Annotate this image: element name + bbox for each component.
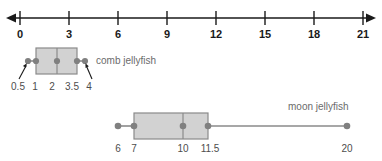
boxplot-comb-jellyfish[interactable]: 0.5 1 2 3.5 4 comb jellyfish	[11, 48, 156, 92]
axis-tick-label-9: 9	[164, 28, 170, 40]
moon-box	[134, 113, 208, 139]
moon-value-label-median: 10	[177, 143, 189, 154]
moon-value-label-max: 20	[341, 143, 353, 154]
axis-tick-labels: 0 3 6 9 12 15 18 21	[17, 28, 369, 40]
axis-tick-label-12: 12	[210, 28, 222, 40]
series-label-comb-jellyfish: comb jellyfish	[96, 55, 156, 66]
comb-marker-median	[54, 58, 60, 64]
comb-value-label-q3: 3.5	[65, 81, 79, 92]
moon-marker-median	[180, 123, 187, 130]
moon-value-label-min: 6	[115, 143, 121, 154]
comb-value-label-median: 2	[49, 81, 55, 92]
comb-pointer-min-arrow-icon	[19, 63, 27, 79]
moon-value-label-q1: 7	[131, 143, 137, 154]
moon-marker-q3	[205, 123, 212, 130]
comb-marker-q1	[33, 58, 39, 64]
series-label-moon-jellyfish: moon jellyfish	[288, 101, 349, 112]
number-line: 0 3 6 9 12 15 18 21	[6, 11, 376, 40]
number-line-arrow-left-icon	[6, 14, 16, 23]
axis-tick-label-18: 18	[308, 28, 320, 40]
comb-value-label-max: 4	[86, 81, 92, 92]
axis-tick-label-6: 6	[115, 28, 121, 40]
axis-tick-label-21: 21	[357, 28, 369, 40]
number-line-arrow-right-icon	[366, 14, 376, 23]
moon-value-label-q3: 11.5	[201, 143, 220, 154]
axis-tick-label-3: 3	[66, 28, 72, 40]
comb-pointer-max-arrow-icon	[85, 63, 92, 79]
moon-marker-min	[115, 123, 122, 130]
moon-marker-max	[344, 123, 351, 130]
comb-marker-max	[82, 58, 88, 64]
boxplot-moon-jellyfish[interactable]: 6 7 10 11.5 20 moon jellyfish	[115, 101, 353, 154]
moon-marker-q1	[131, 123, 138, 130]
box-plot-figure: 0 3 6 9 12 15 18 21	[0, 0, 382, 161]
comb-marker-q3	[74, 58, 80, 64]
comb-value-label-q1: 1	[32, 81, 38, 92]
comb-marker-min	[25, 58, 31, 64]
axis-tick-label-0: 0	[17, 28, 23, 40]
axis-tick-label-15: 15	[259, 28, 271, 40]
figure-canvas: 0 3 6 9 12 15 18 21	[0, 0, 382, 161]
comb-value-label-min: 0.5	[11, 81, 25, 92]
